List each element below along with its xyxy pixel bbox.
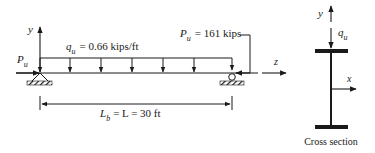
right-axial-load-arrow-icon [236,35,250,73]
right-axial-load-label: Pu= 161 kips [179,27,241,43]
cross-section: y qu x Cross section [304,6,358,147]
cross-section-load-label: qu [338,26,348,42]
cross-section-caption: Cross section [304,136,358,147]
z-axis-label: z [273,56,278,67]
beam-elevation: y qu= 0.66 kips/ft Pu [16,23,286,123]
cross-section-x-label: x [346,73,352,84]
cross-section-y-label: y [317,7,323,19]
distributed-load [40,58,232,72]
roller-support-icon [220,74,244,85]
beam-column-diagram: y qu= 0.66 kips/ft Pu [0,0,375,153]
left-axial-load-label: Pu [16,53,28,69]
pin-support-icon [27,73,52,85]
span-label: Lb= L = 30 ft [99,107,161,123]
distributed-load-label: qu= 0.66 kips/ft [66,40,139,56]
y-axis-label: y [27,23,33,35]
